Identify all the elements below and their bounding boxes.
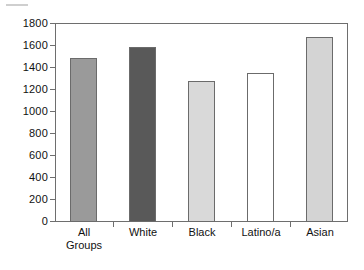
bar-asian [306, 37, 333, 222]
x-axis-label-line1: Latino/a [241, 226, 280, 238]
x-axis-label-line1: All [78, 226, 90, 238]
x-axis-label-line1: Asian [306, 226, 334, 238]
x-axis-label-asian: Asian [290, 226, 350, 239]
bar-white [129, 47, 156, 222]
x-axis-label-all-groups: All Groups [54, 226, 114, 252]
x-axis-label-latino-a: Latino/a [231, 226, 291, 239]
x-axis-labels: All Groups White Black Latino/a Asian [0, 226, 364, 270]
x-axis-label-black: Black [172, 226, 232, 239]
x-axis-label-line1: Black [189, 226, 216, 238]
x-axis-label-line1: White [129, 226, 157, 238]
x-axis-label-white: White [113, 226, 173, 239]
bar-chart: 1800 1600 1400 1200 1000 800 600 400 200… [0, 0, 364, 270]
bar-black [188, 81, 215, 222]
x-axis-label-line2: Groups [54, 239, 114, 252]
bar-all-groups [70, 58, 97, 222]
bar-latino-a [247, 73, 274, 222]
